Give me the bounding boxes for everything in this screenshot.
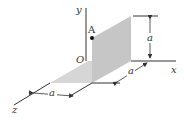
- diagram-canvas: a a a A y O x z: [0, 0, 186, 118]
- point-a-label: A: [87, 24, 96, 35]
- x-axis-label: x: [171, 64, 177, 75]
- point-a: [90, 36, 94, 40]
- diagram-svg: a a a A y O x z: [0, 0, 186, 118]
- plate-front-edge: [70, 83, 92, 96]
- dim-bottom-label: a: [49, 87, 55, 98]
- vertical-plate: [92, 16, 131, 83]
- horizontal-plate: [50, 61, 92, 83]
- y-axis-label: y: [75, 4, 82, 15]
- origin-label: O: [76, 54, 84, 65]
- dim-vertical-label: a: [147, 32, 153, 43]
- z-axis-label: z: [11, 104, 18, 115]
- dim-diagonal-label: a: [128, 65, 134, 76]
